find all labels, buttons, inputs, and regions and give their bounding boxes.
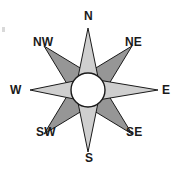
compass-label-e: E [162,84,170,96]
compass-label-s: S [85,152,93,164]
compass-rose-graphic [0,0,177,175]
compass-rose-figure: N NE E SE S SW W NW [0,0,177,175]
compass-label-se: SE [126,126,142,138]
compass-label-nw: NW [33,36,53,48]
compass-hub-circle [71,73,105,107]
compass-label-w: W [10,84,22,96]
compass-label-ne: NE [125,36,142,48]
compass-label-sw: SW [36,126,56,138]
compass-label-n: N [84,10,93,22]
